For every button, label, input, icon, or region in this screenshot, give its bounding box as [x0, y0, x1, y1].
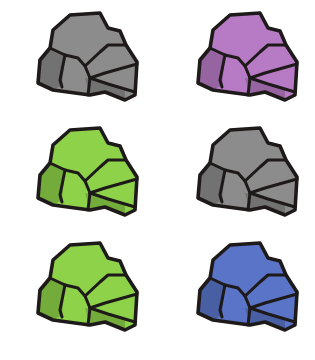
rock-green-2-icon	[20, 230, 150, 345]
rock-gray-1-icon	[20, 0, 150, 115]
rock-icon-sheet	[0, 0, 315, 360]
rock-gray-2-icon	[180, 115, 310, 230]
rock-purple-icon	[180, 0, 310, 115]
rock-blue-icon	[180, 230, 310, 345]
rock-green-1-icon	[20, 115, 150, 230]
